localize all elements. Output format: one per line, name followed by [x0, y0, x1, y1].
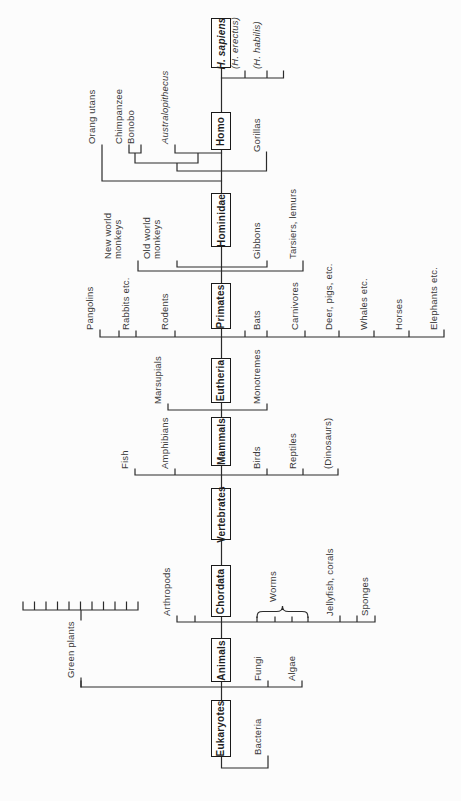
worms-brace — [257, 606, 308, 618]
h-sapiens-bracket — [222, 71, 284, 78]
leaf-label-new-world-monkeys: New world monkeys — [103, 213, 123, 259]
leaf-label-orang-utans: Orang utans — [86, 90, 97, 144]
leaf-label-fungi: Fungi — [252, 656, 263, 681]
taxon-box-chordata-label: Chordata — [216, 568, 227, 614]
leaf-label-birds: Birds — [251, 446, 262, 469]
taxon-box-homo-label: Homo — [216, 116, 227, 145]
leaf-label-algae: Algae — [286, 656, 297, 681]
taxon-box-primates-label: Primates — [216, 284, 227, 328]
taxon-box-hominidae: Hominidae — [211, 193, 231, 247]
leaf-label-h-erectus: (H. erectus) — [229, 17, 240, 69]
homo-clade-lines — [102, 145, 267, 181]
animals-comb — [177, 616, 375, 622]
taxon-box-animals-label: Animals — [216, 640, 227, 680]
leaf-label-monotremes: Monotremes — [251, 349, 262, 404]
leaf-label-fish: Fish — [119, 450, 130, 469]
eukaryotes-comb — [81, 681, 302, 687]
leaf-label-horses: Horses — [393, 299, 404, 330]
taxon-box-animals: Animals — [211, 638, 231, 682]
taxon-box-vertebrates: Vertebrates — [211, 488, 231, 540]
taxon-box-mammals-label: Mammals — [216, 418, 227, 465]
monkeys-brackets — [138, 261, 303, 271]
leaf-label-bats: Bats — [251, 310, 262, 330]
leaf-label-carnivores: Carnivores — [289, 282, 300, 330]
leaf-label-tarsiers-lemurs: Tarsiers, lemurs — [287, 189, 298, 259]
taxon-box-eutheria: Eutheria — [211, 358, 231, 403]
leaf-label-jellyfish-corals: Jellyfish, corals — [324, 548, 335, 616]
leaf-label-old-world-monkeys: Old world monkeys — [142, 217, 162, 259]
leaf-label-gorillas: Gorillas — [251, 118, 262, 152]
leaf-label-worms: Worms — [267, 571, 278, 602]
leaf-label-green-plants: Green plants — [65, 621, 76, 678]
green-plants-comb — [23, 602, 138, 687]
leaf-label-marsupials: Marsupials — [152, 356, 163, 404]
leaf-label-bonobo: Bonobo — [125, 110, 136, 144]
leaf-label-gibbons: Gibbons — [251, 222, 262, 259]
taxon-box-h-sapiens-label: H. sapiens — [216, 17, 227, 69]
leaf-label-dinosaurs: (Dinosaurs) — [322, 418, 333, 469]
phylogenetic-tree-figure: Eukaryotes Animals Chordata Vertebrates … — [0, 0, 461, 801]
leaf-label-whales: Whales etc. — [358, 278, 369, 330]
leaf-label-sponges: Sponges — [359, 577, 370, 616]
leaf-label-elephants: Elephants etc. — [428, 267, 439, 330]
taxon-box-hominidae-label: Hominidae — [216, 194, 227, 247]
leaf-label-amphibians: Amphibians — [159, 417, 170, 469]
leaf-label-chimpanzee: Chimpanzee — [113, 89, 124, 144]
eutheria-comb — [100, 330, 444, 337]
taxon-box-mammals: Mammals — [211, 417, 231, 466]
taxon-box-vertebrates-label: Vertebrates — [216, 486, 227, 543]
marsupials-bracket — [168, 404, 267, 410]
leaf-label-australopithecus: Australopithecus — [159, 71, 170, 144]
leaf-label-arthropods: Arthropods — [161, 568, 172, 616]
taxon-box-eukaryotes: Eukaryotes — [211, 700, 231, 757]
taxon-box-chordata: Chordata — [211, 565, 231, 617]
taxon-box-homo: Homo — [211, 112, 231, 150]
leaf-label-deer-pigs: Deer, pigs, etc. — [323, 263, 334, 330]
leaf-label-rodents: Rodents — [159, 293, 170, 330]
taxon-box-eutheria-label: Eutheria — [216, 360, 227, 402]
leaf-label-rabbits: Rabbits etc. — [120, 277, 131, 330]
taxon-box-h-sapiens: H. sapiens — [211, 18, 231, 68]
taxon-box-primates: Primates — [211, 283, 231, 329]
leaf-label-h-habilis: (H. habilis) — [251, 21, 262, 69]
taxon-box-eukaryotes-label: Eukaryotes — [216, 701, 227, 757]
vertebrates-comb — [135, 469, 338, 475]
leaf-label-reptiles: Reptiles — [287, 433, 298, 469]
leaf-label-bacteria: Bacteria — [252, 719, 263, 755]
leaf-label-pangolins: Pangolins — [84, 286, 95, 330]
